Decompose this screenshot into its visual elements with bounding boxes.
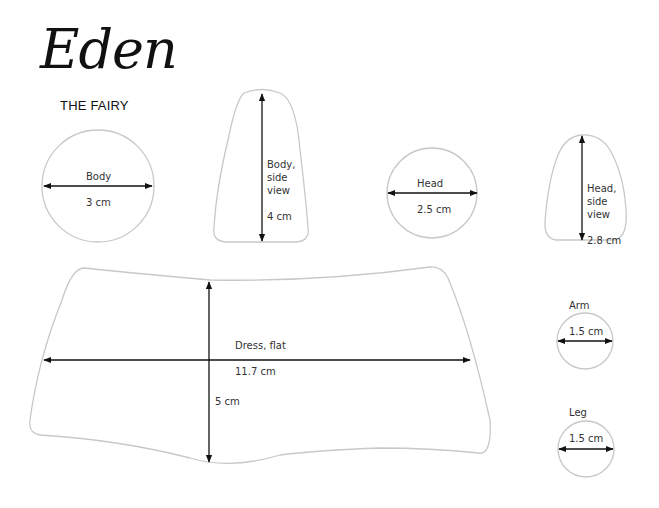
head-side-measure: 2.8 cm [587,234,621,247]
pattern-diagram [0,0,659,508]
head-name: Head [417,177,451,190]
head-side-name: Head, side view [587,182,621,221]
arm-name: Arm [569,299,603,312]
leg-label: Leg 1.5 cm [569,393,603,458]
head-label: Head 2.5 cm [417,164,451,229]
body-side-name: Body, side view [267,158,295,197]
body-measure: 3 cm [86,196,111,209]
head-side-label: Head, side view 2.8 cm [587,169,621,260]
body-name: Body [86,170,111,183]
body-label: Body 3 cm [86,157,111,222]
dress-width: 11.7 cm [235,365,286,378]
dress-label: Dress, flat 11.7 cm [235,326,286,391]
leg-name: Leg [569,406,603,419]
arm-measure: 1.5 cm [569,325,603,338]
dress-name: Dress, flat [235,339,286,352]
leg-measure: 1.5 cm [569,432,603,445]
body-side-label: Body, side view 4 cm [267,145,295,236]
dress-height-label: 5 cm [215,395,240,408]
body-side-measure: 4 cm [267,210,295,223]
arm-label: Arm 1.5 cm [569,286,603,351]
head-measure: 2.5 cm [417,203,451,216]
